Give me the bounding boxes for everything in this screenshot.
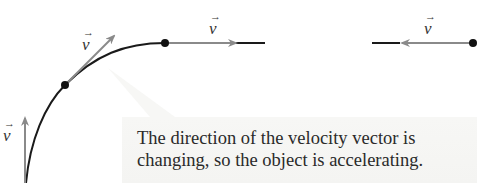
callout-text: The direction of the velocity vector is … — [137, 127, 423, 171]
vector-arrow-icon: → — [83, 27, 94, 38]
position-dot-2 — [161, 39, 169, 47]
callout-box: The direction of the velocity vector is … — [122, 117, 477, 183]
vector-label-diagonal: → v — [82, 36, 90, 53]
vector-arrow-icon: → — [425, 11, 436, 22]
vector-label-right: → v — [424, 20, 432, 37]
vector-arrow-icon: → — [210, 11, 221, 22]
callout-pointer — [108, 68, 175, 117]
vector-label-left: → v — [3, 127, 11, 144]
vector-arrow-icon: → — [4, 118, 15, 129]
vector-label-top: → v — [209, 20, 217, 37]
callout-line-1: The direction of the velocity vector is — [137, 127, 423, 149]
position-dot-3 — [469, 39, 477, 47]
position-dot-1 — [61, 81, 69, 89]
callout-line-2: changing, so the object is accelerating. — [137, 149, 423, 171]
